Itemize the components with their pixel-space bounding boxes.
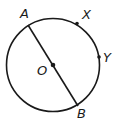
point-y bbox=[97, 55, 101, 59]
label-x: X bbox=[81, 7, 92, 22]
point-x bbox=[75, 22, 79, 26]
label-o: O bbox=[37, 63, 47, 78]
label-b: B bbox=[77, 106, 86, 121]
label-y: Y bbox=[103, 50, 112, 65]
center-point-o bbox=[51, 63, 56, 68]
label-a: A bbox=[19, 6, 29, 21]
circle-diagram: A B X Y O bbox=[0, 0, 119, 124]
